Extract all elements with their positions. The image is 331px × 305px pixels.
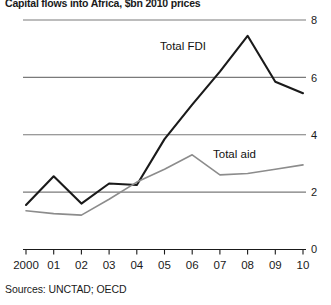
series-line-total-fdi bbox=[26, 36, 303, 205]
chart-figure: Capital flows into Africa, $bn 2010 pric… bbox=[0, 0, 331, 305]
y-tick-label: 4 bbox=[311, 129, 317, 141]
x-tick-label: 03 bbox=[103, 259, 116, 271]
y-tick-label: 6 bbox=[311, 72, 317, 84]
x-tick-label: 05 bbox=[158, 259, 171, 271]
y-tick-label: 0 bbox=[311, 243, 317, 255]
x-tick-label: 08 bbox=[241, 259, 254, 271]
x-tick-label: 09 bbox=[269, 259, 282, 271]
x-tick-label: 10 bbox=[297, 259, 310, 271]
x-tick-label: 02 bbox=[75, 259, 88, 271]
series-label-total-fdi: Total FDI bbox=[160, 40, 206, 52]
data-series-group bbox=[26, 36, 303, 215]
source-note: Sources: UNCTAD; OECD bbox=[5, 283, 126, 295]
x-tick-label: 2000 bbox=[13, 259, 39, 271]
x-tick-label: 07 bbox=[213, 259, 226, 271]
x-tick-label: 01 bbox=[47, 259, 60, 271]
x-tick-label: 04 bbox=[130, 259, 143, 271]
y-tick-label: 8 bbox=[311, 14, 317, 26]
x-tick-label: 06 bbox=[186, 259, 199, 271]
y-tick-label: 2 bbox=[311, 186, 317, 198]
series-line-total-aid bbox=[26, 155, 303, 215]
x-axis-ticks-group bbox=[26, 250, 303, 255]
series-label-total-aid: Total aid bbox=[213, 148, 256, 160]
